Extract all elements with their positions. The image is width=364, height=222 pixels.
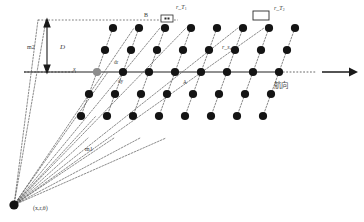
grid-dot (207, 112, 215, 120)
grid-dot (205, 46, 213, 54)
transmitter-1-label: r_T1 (176, 4, 187, 11)
radar-transmitter-icon[interactable] (253, 11, 269, 20)
margin-m1-label: m1 (85, 146, 93, 152)
grid-dot (77, 112, 85, 120)
grid-dot (181, 112, 189, 120)
grid-dot (257, 46, 265, 54)
grid-dot (215, 90, 223, 98)
grid-dot (103, 112, 111, 120)
grid-dot (129, 112, 137, 120)
grid-dot (179, 46, 187, 54)
margin-m2-label: m2 (27, 44, 35, 50)
delta-y-label: dy (118, 79, 123, 84)
grid-dot (239, 24, 247, 32)
grid-dot (233, 112, 241, 120)
grid-dot (241, 90, 249, 98)
dot-row-5 (77, 112, 267, 120)
grid-dot (101, 46, 109, 54)
point-a-label: A (183, 80, 187, 85)
radar-geometry-diagram: B r_T1 r_T2 r_sx D m2 m1 x dr dy A 航向 (x… (0, 0, 364, 222)
grid-dot (265, 24, 273, 32)
grid-dot (283, 46, 291, 54)
grid-dot (153, 46, 161, 54)
transmitter-2-label: r_T2 (274, 5, 285, 12)
grid-dot (187, 24, 195, 32)
sightline-ray (14, 28, 238, 205)
slant-range-label: r_sx (222, 44, 232, 51)
depth-label-d: D (60, 44, 65, 51)
grid-dot (163, 90, 171, 98)
baseline-label-b: B (144, 12, 148, 18)
sightline-ray (14, 28, 160, 205)
grid-dot (85, 90, 93, 98)
grid-dot (223, 68, 231, 76)
dot-row-4 (85, 90, 275, 98)
grid-dot (145, 68, 153, 76)
heading-arrow-icon (322, 68, 358, 77)
delta-r-label: dr (114, 60, 118, 65)
grid-dot (135, 24, 143, 32)
dot-row-2 (101, 46, 291, 54)
sightline-ray (14, 116, 96, 205)
grid-dot (267, 90, 275, 98)
grid-dot (119, 68, 127, 76)
diagram-canvas (0, 0, 364, 222)
sightline-ray (14, 72, 108, 205)
grid-dot (249, 68, 257, 76)
grid-dot (291, 24, 299, 32)
dimension-arrow-icon (44, 19, 50, 73)
source-point-marker (9, 200, 18, 209)
grid-dot (197, 68, 205, 76)
grid-dot (161, 24, 169, 32)
dot-row-1 (109, 24, 299, 32)
grid-dot (137, 90, 145, 98)
sightline-ray (14, 28, 264, 205)
grid-dot (171, 68, 179, 76)
grid-dot (275, 68, 283, 76)
heading-label-cjk: 航向 (274, 82, 288, 90)
sightline-ray (14, 138, 114, 205)
grid-dot (127, 46, 135, 54)
grid-dot (109, 24, 117, 32)
grid-dot (259, 112, 267, 120)
grid-dot-highlight (93, 68, 101, 76)
grid-dot (231, 46, 239, 54)
grid-dot (189, 90, 197, 98)
source-coordinates-label: (x,r,θ) (33, 205, 48, 211)
grid-dot (213, 24, 221, 32)
axis-x-label: x (73, 66, 76, 72)
radar-transmitter-icon[interactable] (161, 15, 173, 22)
grid-dot (155, 112, 163, 120)
grid-dot (111, 90, 119, 98)
